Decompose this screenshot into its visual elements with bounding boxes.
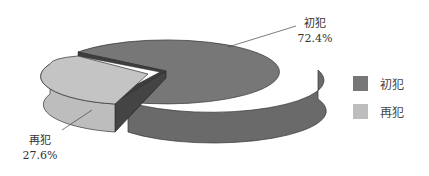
data-label-first-value: 72.4% [296, 31, 334, 46]
data-label-repeat-value: 27.6% [20, 148, 60, 163]
legend-item-repeat: 再犯 [353, 104, 404, 118]
data-label-first: 初犯 72.4% [296, 16, 334, 46]
legend-label-repeat: 再犯 [380, 103, 404, 120]
data-label-repeat: 再犯 27.6% [20, 133, 60, 163]
legend-label-first: 初犯 [380, 75, 404, 92]
legend: 初犯 再犯 [353, 76, 404, 132]
data-label-repeat-name: 再犯 [20, 133, 60, 148]
legend-swatch-repeat [353, 104, 368, 119]
data-label-first-name: 初犯 [296, 16, 334, 31]
legend-swatch-first [353, 76, 368, 91]
legend-item-first: 初犯 [353, 76, 404, 90]
leader-line-first [228, 26, 296, 47]
